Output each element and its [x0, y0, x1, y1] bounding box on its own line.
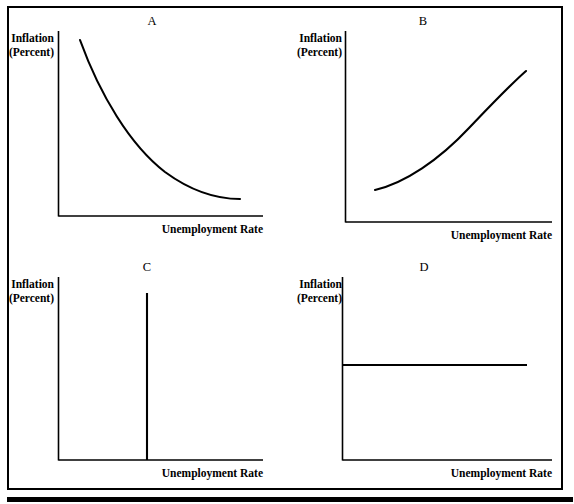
panel-c-x-axis-label: Unemployment Rate — [143, 468, 263, 480]
panel-b-x-axis-label: Unemployment Rate — [432, 230, 552, 242]
panel-d-x-axis-label: Unemployment Rate — [432, 468, 552, 480]
panel-a-x-axis-label: Unemployment Rate — [143, 224, 263, 236]
panel-a: A Inflation (Percent) Unemployment Rate — [0, 0, 287, 252]
panel-b-curve — [375, 71, 526, 190]
panel-a-curve — [80, 40, 240, 199]
panel-d: D Inflation (Percent) Unemployment Rate — [287, 252, 574, 504]
figure-root: A Inflation (Percent) Unemployment Rate … — [0, 0, 574, 504]
panel-c: C Inflation (Percent) Unemployment Rate — [0, 252, 287, 504]
panel-b-plot — [287, 0, 574, 252]
panel-a-plot — [0, 0, 287, 252]
panel-b: B Inflation (Percent) Unemployment Rate — [287, 0, 574, 252]
bottom-horizontal-rule — [7, 497, 573, 502]
